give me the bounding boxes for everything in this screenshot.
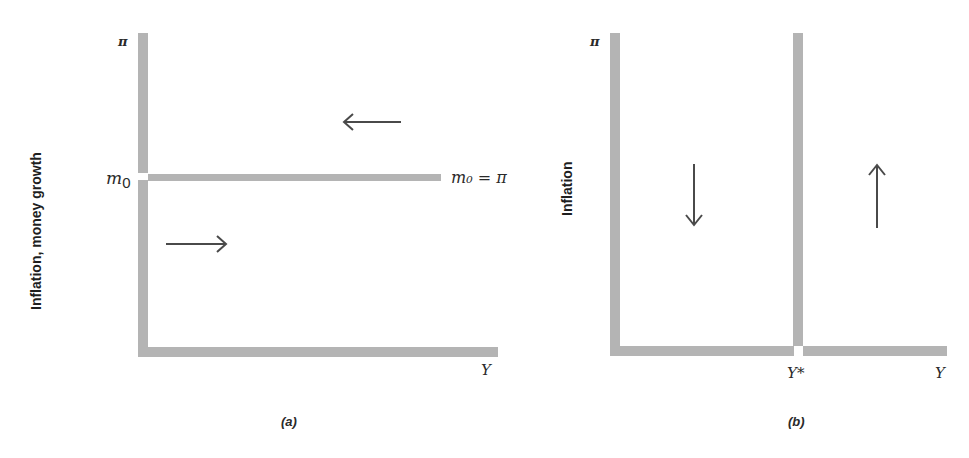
panel-b-y-star-line [793, 33, 803, 346]
panel-a-x-axis-symbol: Y [481, 361, 491, 379]
m-subscript: 0 [122, 174, 130, 191]
panel-b-y-axis-label: Inflation [559, 162, 575, 216]
panel-a-m0-label: m0 [106, 168, 130, 188]
m-symbol: m [106, 168, 122, 188]
panel-a-y-axis-label: Inflation, money growth [28, 152, 44, 310]
panel-a-line-label: m₀ = π [451, 168, 507, 187]
panel-a-y-axis-gap [138, 173, 148, 180]
panel-a-y-axis [138, 33, 148, 357]
figure: Inflation, money growth π m0 m₀ = π Y [0, 0, 969, 458]
arrow-right-icon [164, 234, 230, 254]
arrow-down-icon [684, 162, 704, 228]
panel-b-x-axis-symbol: Y [935, 364, 945, 382]
panel-a-caption: (a) [281, 414, 297, 429]
arrow-up-icon [867, 162, 887, 230]
panel-a-x-axis [138, 347, 498, 357]
panel-a-m0-equals-pi-line [148, 174, 441, 181]
panel-b-y-axis [610, 33, 620, 356]
panel-b-pi-symbol: π [590, 34, 600, 49]
panel-b-x-axis-left [610, 346, 794, 356]
panel-b-caption: (b) [788, 414, 805, 429]
panel-a-pi-symbol: π [118, 34, 128, 49]
panel-b-x-axis-right [803, 346, 947, 356]
arrow-left-icon [340, 112, 404, 132]
panel-b-y-star-label: Y* [787, 364, 804, 382]
